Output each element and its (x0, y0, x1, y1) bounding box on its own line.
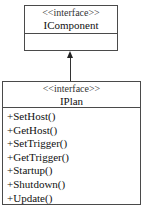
arrowhead-icon (67, 51, 73, 58)
class-header-icomponent: <<interface>> IComponent (25, 6, 117, 34)
operation-gettrigger: +GetTrigger() (7, 151, 140, 165)
operation-shutdown: +Shutdown() (7, 178, 140, 192)
class-name-iplan: IPlan (3, 95, 140, 108)
operation-sethost: +SetHost() (7, 110, 140, 124)
operation-startup: +Startup() (7, 164, 140, 178)
operation-settrigger: +SetTrigger() (7, 137, 140, 151)
stereotype-label: <<interface>> (3, 83, 140, 95)
operation-update: +Update() (7, 192, 140, 206)
class-header-iplan: <<interface>> IPlan (3, 82, 140, 108)
class-box-iplan: <<interface>> IPlan +SetHost() +GetHost(… (2, 81, 141, 205)
class-name-icomponent: IComponent (25, 19, 117, 32)
inheritance-connector (70, 58, 71, 81)
stereotype-label: <<interface>> (25, 7, 117, 19)
class-operations-iplan: +SetHost() +GetHost() +SetTrigger() +Get… (3, 108, 140, 205)
operation-gethost: +GetHost() (7, 124, 140, 138)
class-box-icomponent: <<interface>> IComponent (24, 5, 118, 51)
